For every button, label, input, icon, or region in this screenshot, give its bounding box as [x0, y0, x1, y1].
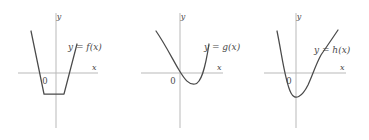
function-label-f: y = f(x) — [67, 42, 102, 52]
x-axis-label-g: x — [217, 63, 222, 72]
function-label-g: y = g(x) — [203, 42, 241, 52]
graph-panel-g: y x 0 y = g(x) — [123, 0, 246, 140]
function-curve-h — [277, 30, 338, 97]
y-axis-label-f: y — [56, 12, 62, 21]
y-axis-label-g: y — [180, 12, 186, 21]
graph-panel-f: y x 0 y = f(x) — [0, 0, 123, 140]
graph-svg-g: y x 0 y = g(x) — [123, 0, 246, 140]
origin-label-g: 0 — [170, 76, 175, 86]
graph-svg-f: y x 0 y = f(x) — [0, 0, 123, 140]
graph-panel-h: y x 0 y = h(x) — [246, 0, 369, 140]
origin-label-f: 0 — [42, 76, 47, 86]
function-curve-g — [156, 31, 209, 84]
y-axis-label-h: y — [296, 12, 302, 21]
function-curve-f — [31, 31, 77, 94]
graph-svg-h: y x 0 y = h(x) — [246, 0, 369, 140]
function-label-h: y = h(x) — [313, 45, 351, 55]
x-axis-label-h: x — [340, 63, 345, 72]
origin-label-h: 0 — [286, 76, 291, 86]
x-axis-label-f: x — [92, 63, 97, 72]
three-function-graphs-figure: y x 0 y = f(x) y x 0 y = g(x) y x 0 y = … — [0, 0, 369, 140]
